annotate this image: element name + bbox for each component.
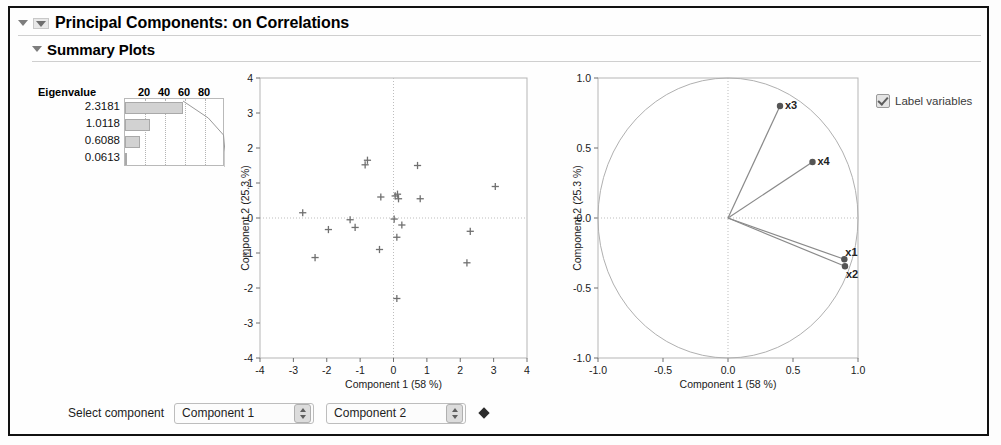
- loading-plot-ytick: 0.5: [576, 142, 591, 154]
- loading-plot-ytick: -1.0: [573, 352, 591, 364]
- label-variables-label: Label variables: [895, 95, 972, 107]
- eigenvalue-table: Eigenvalue 20406080 2.31811.01180.60880.…: [38, 84, 228, 166]
- loading-plot[interactable]: x1x2x3x4-1.0-0.50.00.51.0-1.0-0.50.00.51…: [558, 70, 868, 400]
- scree-bar-chart: [124, 98, 224, 166]
- window-frame: Principal Components: on Correlations Su…: [8, 6, 989, 436]
- score-plot-ytick: 4: [247, 72, 253, 84]
- score-plot-ytick: -4: [244, 352, 253, 364]
- score-plot-xtick: 4: [524, 364, 530, 376]
- eigenvalue-table-body: 2.31811.01180.60880.0613: [38, 98, 228, 166]
- eigenvalue-tick-40: 40: [158, 86, 170, 98]
- pca-report-window: Principal Components: on Correlations Su…: [0, 0, 1001, 445]
- eigenvalue-tick-20: 20: [138, 86, 150, 98]
- loading-plot-xtick: 0.5: [786, 364, 801, 376]
- component-y-select[interactable]: Component 2: [326, 403, 466, 424]
- label-variables-checkbox[interactable]: [876, 94, 890, 108]
- score-plot-xlabel: Component 1 (58 %): [345, 378, 442, 390]
- eigenvalue-row-1: 1.0118: [38, 115, 120, 132]
- component-x-select[interactable]: Component 1: [174, 403, 314, 424]
- score-scatter-plot[interactable]: -4-3-2-101234-4-3-2-101234Component 1 (5…: [228, 70, 533, 400]
- score-plot-xtick: 3: [491, 364, 497, 376]
- score-plot-xtick: -3: [289, 364, 298, 376]
- disclosure-triangle-inner-icon: [36, 21, 46, 27]
- score-plot-xtick: 1: [424, 364, 430, 376]
- loading-label-x4: x4: [818, 155, 830, 167]
- score-plot-xtick: 0: [391, 364, 397, 376]
- select-component-label: Select component: [68, 406, 164, 420]
- score-plot-ytick: -3: [244, 317, 253, 329]
- eigenvalue-row-3: 0.0613: [38, 149, 120, 166]
- score-plot-ytick: 2: [247, 142, 253, 154]
- section-title: Summary Plots: [47, 41, 155, 58]
- disclosure-triangle-outer-icon[interactable]: [18, 20, 28, 26]
- component-x-stepper-icon[interactable]: [294, 404, 311, 423]
- page-title: Principal Components: on Correlations: [55, 14, 349, 32]
- outline-header-principal-components[interactable]: Principal Components: on Correlations: [10, 10, 987, 36]
- component-x-value: Component 1: [175, 406, 294, 420]
- loading-plot-xlabel: Component 1 (58 %): [680, 378, 777, 390]
- header-divider-2: [32, 61, 981, 62]
- score-plot-xtick: -1: [355, 364, 364, 376]
- eigenvalue-tick-60: 60: [178, 86, 190, 98]
- eigenvalue-tick-80: 80: [198, 86, 210, 98]
- score-plot-canvas: [228, 70, 533, 400]
- loading-plot-xtick: -0.5: [654, 364, 672, 376]
- loading-label-x1: x1: [845, 246, 857, 258]
- eigenvalue-row-2: 0.6088: [38, 132, 120, 149]
- loading-plot-xtick: 1.0: [851, 364, 866, 376]
- disclosure-triangle-summary-icon[interactable]: [32, 46, 42, 52]
- diamond-marker-icon[interactable]: [478, 407, 489, 418]
- loading-plot-ytick: 1.0: [576, 72, 591, 84]
- eigenvalue-axis-ticks: 20406080: [124, 84, 224, 98]
- eigenvalue-values: 2.31811.01180.60880.0613: [38, 98, 124, 166]
- disclosure-triangle-inner-button[interactable]: [33, 18, 49, 29]
- component-y-value: Component 2: [327, 406, 446, 420]
- score-plot-xtick: -2: [322, 364, 331, 376]
- loading-plot-ylabel: Component 2 (25.3 %): [571, 165, 583, 271]
- label-variables-control[interactable]: Label variables: [876, 94, 972, 108]
- loading-plot-ytick: -0.5: [573, 282, 591, 294]
- loading-plot-xtick: -1.0: [589, 364, 607, 376]
- loading-label-x2: x2: [846, 268, 858, 280]
- loading-label-x3: x3: [785, 99, 797, 111]
- score-plot-ytick: -2: [244, 282, 253, 294]
- eigenvalue-column-label: Eigenvalue: [38, 86, 124, 98]
- score-plot-xtick: -4: [255, 364, 264, 376]
- eigenvalue-table-header: Eigenvalue 20406080: [38, 84, 228, 98]
- outline-header-summary-plots[interactable]: Summary Plots: [10, 36, 987, 62]
- scree-curve: [125, 99, 225, 167]
- loading-plot-canvas: [558, 70, 868, 400]
- component-y-stepper-icon[interactable]: [446, 404, 463, 423]
- score-plot-ytick: 3: [247, 107, 253, 119]
- score-plot-ylabel: Component 2 (25.3 %): [239, 165, 251, 271]
- loading-plot-xtick: 0.0: [721, 364, 736, 376]
- footer-controls: Select component Component 1 Component 2: [10, 396, 987, 430]
- score-plot-xtick: 2: [457, 364, 463, 376]
- eigenvalue-row-0: 2.3181: [38, 98, 120, 115]
